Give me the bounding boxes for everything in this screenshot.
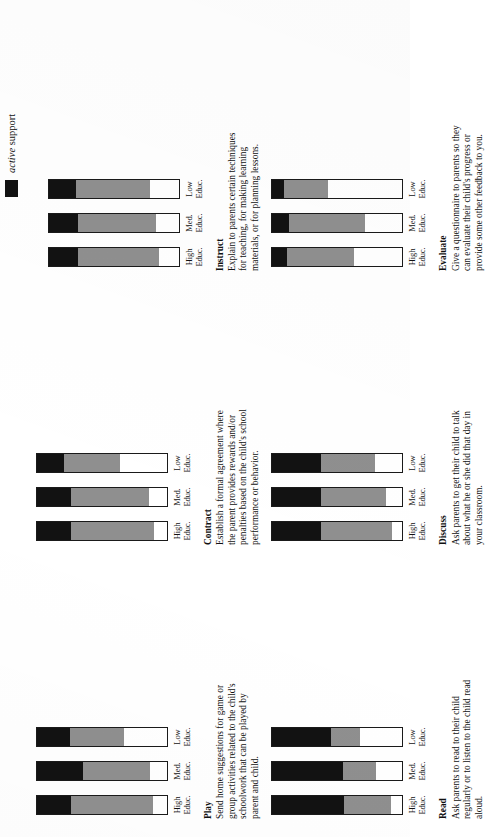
caption-play: Play Send home suggestions for game or g… xyxy=(203,671,261,819)
segment-white xyxy=(154,522,167,540)
tick-med: Med.Educ. xyxy=(172,487,192,507)
tick-high: HighEduc. xyxy=(184,247,204,267)
bar-contract-med xyxy=(36,487,168,507)
segment-gray xyxy=(78,214,156,232)
panel-discuss: HighEduc. Med.Educ. LowEduc. Discuss Ask… xyxy=(271,293,485,545)
panel-read: HighEduc. Med.Educ. LowEduc. Read Ask pa… xyxy=(271,567,485,819)
bars-instruct xyxy=(48,19,180,271)
segment-black xyxy=(272,762,342,780)
segment-white xyxy=(150,180,179,198)
tick-labels-contract: HighEduc. Med.Educ. LowEduc. xyxy=(172,293,192,545)
segment-gray xyxy=(71,796,153,814)
caption-title: Discuss xyxy=(438,397,450,545)
tick-low: LowEduc. xyxy=(407,727,427,747)
caption-body: Ask parents to get their child to talk a… xyxy=(451,397,485,545)
segment-white xyxy=(159,248,179,266)
segment-black xyxy=(272,796,344,814)
segment-black xyxy=(272,248,286,266)
segment-black xyxy=(37,796,71,814)
segment-gray xyxy=(76,180,150,198)
bar-instruct-low xyxy=(48,179,180,199)
tick-low: LowEduc. xyxy=(407,179,427,199)
legend-label-rest: support xyxy=(6,114,17,148)
caption-read: Read Ask parents to read to their child … xyxy=(438,671,485,819)
bar-play-high xyxy=(36,795,168,815)
bar-read-med xyxy=(271,761,403,781)
tick-labels-evaluate: HighEduc. Med.Educ. LowEduc. xyxy=(407,19,427,271)
segment-white xyxy=(120,454,167,472)
tick-med: Med.Educ. xyxy=(407,761,427,781)
segment-black xyxy=(49,180,76,198)
bars-read xyxy=(271,567,403,819)
bars-evaluate xyxy=(271,19,403,271)
tick-labels-discuss: HighEduc. Med.Educ. LowEduc. xyxy=(407,293,427,545)
segment-white xyxy=(386,488,403,506)
panel-play: HighEduc. Med.Educ. LowEduc. Play Send h… xyxy=(36,567,261,819)
segment-gray xyxy=(321,454,376,472)
segment-gray xyxy=(321,488,386,506)
tick-high: HighEduc. xyxy=(407,795,427,815)
segment-white xyxy=(153,796,167,814)
caption-title: Read xyxy=(438,671,450,819)
tick-high: HighEduc. xyxy=(407,521,427,541)
caption-body: Send home suggestions for game or group … xyxy=(215,671,261,819)
segment-white xyxy=(365,214,403,232)
segment-black xyxy=(49,214,79,232)
legend-label-italic: active xyxy=(6,148,17,173)
tick-labels-read: HighEduc. Med.Educ. LowEduc. xyxy=(407,567,427,819)
segment-gray xyxy=(284,180,328,198)
caption-title: Evaluate xyxy=(438,123,450,271)
caption-evaluate: Evaluate Give a questionnaire to parents… xyxy=(438,123,485,271)
bars-contract xyxy=(36,293,168,545)
tick-high: HighEduc. xyxy=(407,247,427,267)
bar-evaluate-low xyxy=(271,179,403,199)
tick-low: LowEduc. xyxy=(184,179,204,199)
tick-med: Med.Educ. xyxy=(184,213,204,233)
segment-white xyxy=(156,214,178,232)
caption-contract: Contract Establish a formal agreement wh… xyxy=(203,397,261,545)
bars-play xyxy=(36,567,168,819)
tick-labels-play: HighEduc. Med.Educ. LowEduc. xyxy=(172,567,192,819)
segment-black xyxy=(37,488,71,506)
segment-black xyxy=(272,454,320,472)
segment-gray xyxy=(71,488,149,506)
bar-discuss-low xyxy=(271,453,403,473)
segment-white xyxy=(391,796,403,814)
segment-black xyxy=(272,488,320,506)
tick-high: HighEduc. xyxy=(172,795,192,815)
segment-black xyxy=(49,248,79,266)
segment-black xyxy=(272,522,320,540)
legend: active support xyxy=(5,114,18,197)
bar-contract-low xyxy=(36,453,168,473)
segment-black xyxy=(37,762,83,780)
segment-white xyxy=(392,522,402,540)
segment-black xyxy=(272,180,284,198)
bar-play-med xyxy=(36,761,168,781)
tick-labels-instruct: HighEduc. Med.Educ. LowEduc. xyxy=(184,19,204,271)
segment-white xyxy=(376,762,402,780)
tick-low: LowEduc. xyxy=(407,453,427,473)
caption-discuss: Discuss Ask parents to get their child t… xyxy=(438,397,485,545)
bar-evaluate-high xyxy=(271,247,403,267)
bar-read-high xyxy=(271,795,403,815)
caption-title: Contract xyxy=(203,397,215,545)
segment-gray xyxy=(343,762,377,780)
segment-black xyxy=(37,522,71,540)
segment-gray xyxy=(344,796,391,814)
segment-gray xyxy=(64,454,120,472)
segment-gray xyxy=(331,728,360,746)
segment-gray xyxy=(70,728,125,746)
segment-gray xyxy=(83,762,151,780)
caption-body: Establish a formal agreement where the p… xyxy=(215,397,261,545)
segment-gray xyxy=(287,248,355,266)
bar-discuss-high xyxy=(271,521,403,541)
legend-label: active support xyxy=(6,114,17,173)
caption-title: Instruct xyxy=(215,123,227,271)
segment-white xyxy=(149,488,167,506)
segment-gray xyxy=(78,248,159,266)
segment-white xyxy=(375,454,402,472)
tick-high: HighEduc. xyxy=(172,521,192,541)
bar-discuss-med xyxy=(271,487,403,507)
segment-white xyxy=(354,248,402,266)
